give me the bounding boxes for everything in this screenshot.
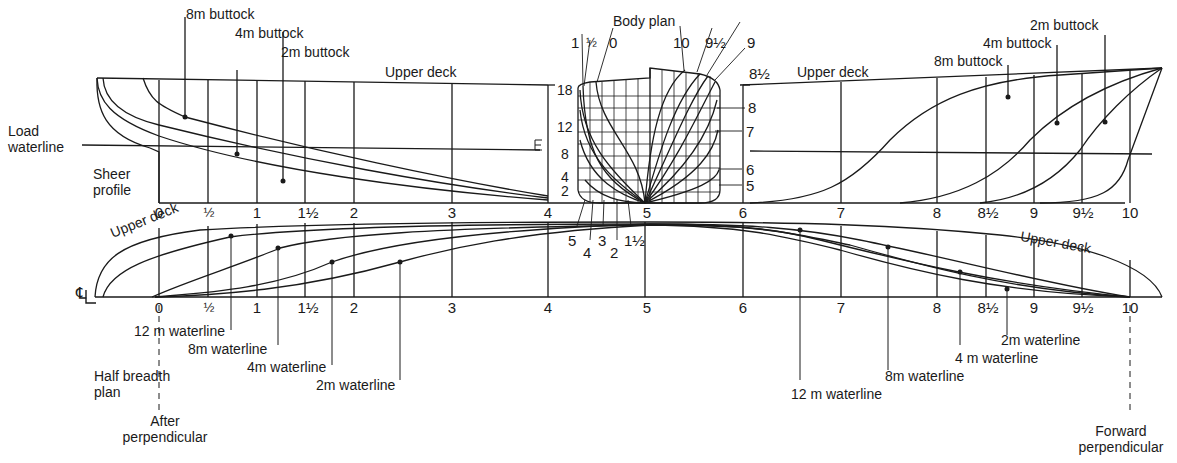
station-label: 1½ [298,300,319,316]
station-label: 9½ [1073,205,1094,221]
body-plan-wl-2: 2 [561,183,569,199]
station-label: 5 [643,300,651,316]
body-plan-station-bottom-4: 4 [583,245,591,261]
sheer-profile-label: Sheer profile [93,166,143,198]
station-label: 7 [837,205,845,221]
station-label: 1½ [298,205,319,221]
body-plan-station-bottom-3: 3 [598,233,606,249]
station-label: 7 [837,300,845,316]
station-label: 10 [1122,205,1139,221]
waterline-label-fwd-2m: 2m waterline [1001,332,1080,348]
body-plan-station-bottom-1half: 1½ [624,233,645,249]
waterline-label-aft-12m: 12 m waterline [134,323,225,339]
station-label: 3 [448,205,456,221]
upper-deck-label-profile-aft: Upper deck [385,64,457,80]
station-label: 1 [253,205,261,221]
body-plan-station-bottom-5: 5 [568,233,576,249]
buttock-label-aft-2m: 2m buttock [281,44,349,60]
load-waterline-label: Load waterline [8,123,68,155]
lines-plan-drawing [0,0,1177,463]
forward-perpendicular-label: Forward perpendicular [1066,423,1176,455]
station-label: 2 [350,205,358,221]
station-label: 3 [448,300,456,316]
body-plan-station-top-9: 9 [747,35,755,51]
station-label: 5 [643,205,651,221]
body-plan-wl-8: 8 [561,146,569,162]
station-label: 0 [155,300,163,316]
after-perpendicular-label: After perpendicular [115,413,215,445]
station-label: 9½ [1073,300,1094,316]
station-label: 8 [933,300,941,316]
station-label: ½ [204,205,215,221]
station-label: 6 [739,205,747,221]
body-plan-station-top-9half: 9½ [705,35,726,51]
station-label: 4 [544,205,552,221]
body-plan-station-top-1: 1 [571,35,579,51]
station-label: ½ [204,300,215,316]
body-plan [577,22,745,240]
waterline-label-aft-8m: 8m waterline [188,341,267,357]
station-label: 4 [544,300,552,316]
waterline-label-fwd-8m: 8m waterline [885,368,964,384]
body-plan-station-top-0: 0 [609,35,617,51]
station-label: 9 [1030,300,1038,316]
body-plan-station-top-10: 10 [673,35,690,51]
body-plan-station-side-8: 8 [748,100,756,116]
buttock-label-fwd-4m: 4m buttock [983,35,1051,51]
upper-deck-label-profile-fwd: Upper deck [797,64,869,80]
waterline-label-aft-2m: 2m waterline [316,377,395,393]
body-plan-station-side-5: 5 [746,178,754,194]
station-label: 8½ [978,205,999,221]
body-plan-station-bottom-2: 2 [610,245,618,261]
waterline-label-fwd-12m: 12 m waterline [791,386,882,402]
station-label: 1 [253,300,261,316]
body-plan-wl-18: 18 [557,82,573,98]
body-plan-station-top-8half: 8½ [749,66,770,82]
body-plan-station-side-6: 6 [746,162,754,178]
station-label: 10 [1122,300,1139,316]
body-plan-station-top-half: ½ [586,35,597,51]
station-label: 6 [739,300,747,316]
buttock-label-fwd-2m: 2m buttock [1030,17,1098,33]
station-label: 2 [350,300,358,316]
buttock-label-aft-4m: 4m buttock [235,25,303,41]
waterline-label-fwd-4m: 4 m waterline [955,350,1038,366]
half-breadth-plan-label: Half breadth plan [94,368,174,400]
station-label: 9 [1030,205,1038,221]
waterline-label-aft-4m: 4m waterline [247,359,326,375]
half-breadth-plan [86,222,1162,412]
body-plan-label: Body plan [613,13,675,29]
buttock-label-fwd-8m: 8m buttock [934,53,1002,69]
body-plan-station-side-7: 7 [746,124,754,140]
centerline-symbol: ℄ [76,286,86,302]
buttock-label-aft-8m: 8m buttock [186,6,254,22]
station-label: 8 [933,205,941,221]
body-plan-wl-12: 12 [557,119,573,135]
station-label: 8½ [978,300,999,316]
